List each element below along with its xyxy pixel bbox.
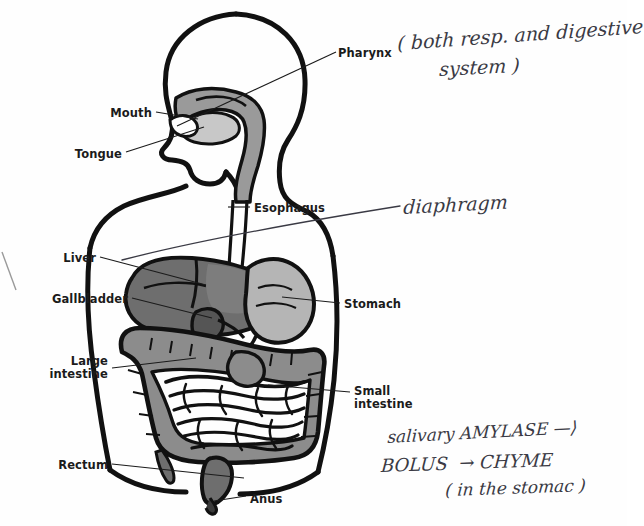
label-anus: Anus — [250, 493, 283, 506]
handwriting-pharynx-note-line2: system ) — [439, 54, 521, 80]
label-rectum: Rectum — [0, 459, 108, 472]
label-gallbladder: Gallbladder — [0, 293, 128, 306]
label-small-intestine: Small intestine — [354, 385, 413, 411]
label-pharynx: Pharynx — [338, 47, 392, 60]
label-large-intestine: Large intestine — [0, 355, 108, 381]
label-mouth: Mouth — [0, 107, 152, 120]
label-tongue: Tongue — [0, 148, 122, 161]
label-esophagus: Esophagus — [254, 202, 325, 215]
label-liver: Liver — [0, 252, 96, 265]
label-stomach: Stomach — [344, 298, 401, 311]
